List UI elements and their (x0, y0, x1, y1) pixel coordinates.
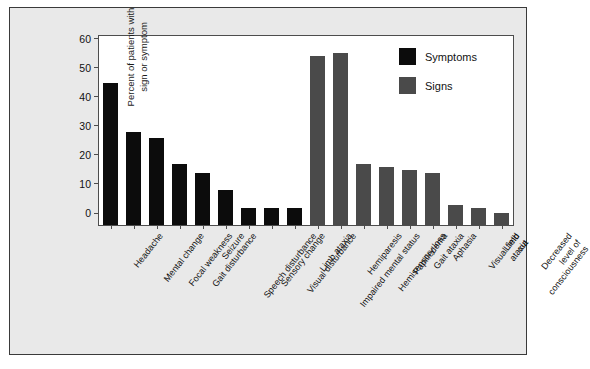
bar (425, 173, 439, 225)
y-axis-tick-label: 0 (85, 207, 94, 219)
bar (310, 56, 324, 225)
legend-label-symptoms: Symptoms (425, 51, 477, 63)
x-axis-tick-mark (180, 225, 181, 229)
x-axis-tick-mark (249, 225, 250, 229)
x-axis-tick-label: Decreased level of consciousness (529, 231, 590, 297)
bar (287, 208, 301, 225)
y-axis-tick: 30 (79, 120, 99, 132)
y-axis-tick-label: 10 (79, 178, 94, 190)
bar (103, 83, 117, 225)
x-axis-tick-mark (134, 225, 135, 229)
bar (356, 164, 370, 225)
y-axis-tick-label: 30 (79, 120, 94, 132)
x-axis-tick-label: Headache (131, 231, 165, 270)
legend-item: Signs (399, 77, 477, 94)
legend-item: Symptoms (399, 48, 477, 65)
y-axis-tick: 10 (79, 178, 99, 190)
x-axis-tick-mark (456, 225, 457, 229)
y-axis-tick: 50 (79, 62, 99, 74)
legend-swatch-symptoms (399, 48, 416, 65)
x-axis-tick-mark (410, 225, 411, 229)
bar (149, 138, 163, 225)
bar (218, 190, 232, 225)
y-axis-tick-label: 40 (79, 91, 94, 103)
legend-label-signs: Signs (425, 80, 453, 92)
bar (172, 164, 186, 225)
bar (402, 170, 416, 225)
y-axis-tick: 40 (79, 91, 99, 103)
bar (333, 53, 347, 225)
y-axis-tick: 20 (79, 149, 99, 161)
x-axis-tick-mark (226, 225, 227, 229)
figure-panel: Percent of patients with sign or symptom… (9, 7, 527, 355)
y-axis-tick-label: 20 (79, 149, 94, 161)
x-axis-tick-mark (111, 225, 112, 229)
x-axis-tick-mark (364, 225, 365, 229)
y-axis-tick-label: 60 (79, 33, 94, 45)
plot-area: Percent of patients with sign or symptom… (98, 35, 514, 226)
x-axis-tick-mark (157, 225, 158, 229)
legend-swatch-signs (399, 77, 416, 94)
x-axis-tick-mark (479, 225, 480, 229)
x-axis-tick-mark (387, 225, 388, 229)
x-axis-tick-mark (318, 225, 319, 229)
bar (241, 208, 255, 225)
bar (126, 132, 140, 225)
bar (448, 205, 462, 225)
y-axis-tick: 60 (79, 33, 99, 45)
bar (264, 208, 278, 225)
x-axis-tick-mark (433, 225, 434, 229)
bar (379, 167, 393, 225)
chart-legend: Symptoms Signs (399, 48, 477, 106)
x-axis-tick-mark (203, 225, 204, 229)
bar (195, 173, 209, 225)
x-axis-tick-mark (341, 225, 342, 229)
x-axis-tick-mark (502, 225, 503, 229)
x-axis-tick-mark (272, 225, 273, 229)
bar (471, 208, 485, 225)
bar (494, 213, 508, 225)
y-axis-tick: 0 (85, 207, 99, 219)
x-axis-tick-mark (295, 225, 296, 229)
y-axis-tick-label: 50 (79, 62, 94, 74)
